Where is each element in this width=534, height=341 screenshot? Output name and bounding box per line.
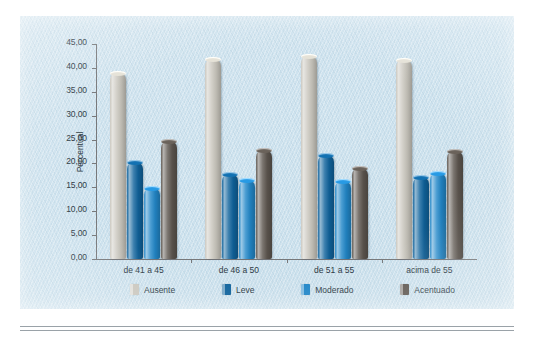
x-tick-mark	[382, 259, 383, 263]
bar-leve[interactable]	[222, 174, 238, 259]
y-tick-label: 45,00	[66, 37, 87, 47]
legend-label: Ausente	[144, 285, 175, 295]
legend-item-leve[interactable]: Leve	[222, 284, 254, 295]
y-tick-mark	[92, 259, 96, 260]
bar-leve[interactable]	[413, 177, 429, 259]
bar-acentuado[interactable]	[256, 150, 272, 259]
bar-group: de 51 a 55	[287, 44, 382, 259]
legend-item-ausente[interactable]: Ausente	[130, 284, 175, 295]
bar-group: acima de 55	[382, 44, 477, 259]
chart-legend: AusenteLeveModeradoAcentuado	[96, 284, 477, 295]
bar-ausente[interactable]	[396, 60, 412, 259]
y-tick-label: 15,00	[66, 180, 87, 190]
y-tick-label: 0,00	[71, 252, 87, 262]
legend-swatch-icon	[130, 284, 139, 295]
y-tick-label: 20,00	[66, 156, 87, 166]
x-tick-mark	[191, 259, 192, 263]
bar-acentuado[interactable]	[161, 141, 177, 259]
legend-label: Moderado	[315, 285, 353, 295]
y-tick-label: 30,00	[66, 109, 87, 119]
bar-group: de 41 a 45	[96, 44, 191, 259]
bar-moderado[interactable]	[239, 180, 255, 259]
x-tick-mark	[287, 259, 288, 263]
y-tick-label: 35,00	[66, 85, 87, 95]
legend-swatch-icon	[301, 284, 310, 295]
legend-swatch-icon	[222, 284, 231, 295]
y-tick-label: 25,00	[66, 133, 87, 143]
legend-item-moderado[interactable]: Moderado	[301, 284, 353, 295]
bar-acentuado[interactable]	[352, 168, 368, 259]
document-page: Percentual 0,005,0010,0015,0020,0025,003…	[0, 0, 534, 341]
bar-ausente[interactable]	[205, 59, 221, 259]
bar-acentuado[interactable]	[447, 151, 463, 259]
page-rule-top	[20, 326, 514, 327]
page-rule-bottom	[20, 330, 514, 331]
y-tick-label: 10,00	[66, 204, 87, 214]
bar-leve[interactable]	[127, 162, 143, 259]
legend-swatch-icon	[400, 284, 409, 295]
chart-figure-panel: Percentual 0,005,0010,0015,0020,0025,003…	[20, 16, 514, 309]
legend-item-acentuado[interactable]: Acentuado	[400, 284, 455, 295]
bar-moderado[interactable]	[144, 188, 160, 259]
bar-group: de 46 a 50	[191, 44, 286, 259]
bar-leve[interactable]	[318, 155, 334, 259]
bar-ausente[interactable]	[301, 56, 317, 259]
x-axis-category-label: acima de 55	[369, 265, 489, 275]
legend-label: Leve	[236, 285, 254, 295]
bar-ausente[interactable]	[110, 73, 126, 259]
y-tick-label: 5,00	[71, 228, 87, 238]
bar-moderado[interactable]	[430, 173, 446, 259]
bar-moderado[interactable]	[335, 181, 351, 259]
plot-area: Percentual 0,005,0010,0015,0020,0025,003…	[96, 44, 477, 259]
y-tick-label: 40,00	[66, 61, 87, 71]
legend-label: Acentuado	[414, 285, 455, 295]
